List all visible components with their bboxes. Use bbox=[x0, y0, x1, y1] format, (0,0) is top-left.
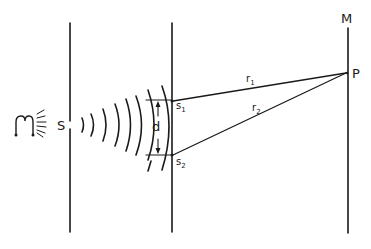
ray-r1 bbox=[173, 73, 346, 101]
path1-label: r1 bbox=[246, 74, 255, 87]
source-label: S bbox=[57, 119, 65, 132]
diagram-lines bbox=[0, 0, 371, 249]
point-label: P bbox=[352, 67, 360, 80]
path2-label: r2 bbox=[252, 103, 261, 116]
separation-label: d bbox=[152, 120, 160, 133]
slit2-label: s2 bbox=[176, 157, 186, 170]
lamp-icon bbox=[16, 110, 46, 137]
screen-label: M bbox=[341, 12, 352, 25]
slit1-label: s1 bbox=[176, 101, 186, 114]
double-slit-diagram: S d s1 s2 r1 r2 M P bbox=[0, 0, 371, 249]
